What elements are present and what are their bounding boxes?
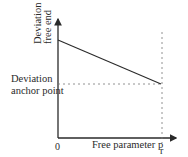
anchor-label-line2: anchor point xyxy=(11,85,64,96)
y-axis-label-line2: free end xyxy=(42,9,53,44)
origin-label: 0 xyxy=(55,141,60,152)
x-axis-label: Free parameter p xyxy=(92,139,163,150)
r-label: r xyxy=(160,145,164,156)
deviation-diagram: Deviation free end Deviation anchor poin… xyxy=(0,0,188,157)
anchor-label-line1: Deviation xyxy=(11,73,53,84)
deviation-line xyxy=(58,40,161,84)
